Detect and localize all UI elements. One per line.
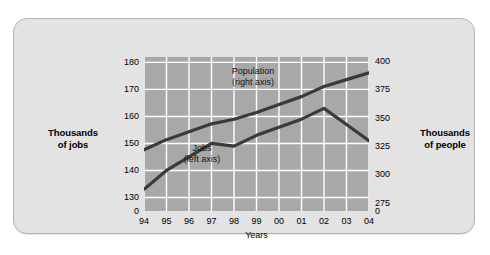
y-axis-tick-right: 350: [375, 114, 401, 123]
annotation-population-line1: Population: [232, 66, 275, 76]
annotation-jobs-line1: Jobs: [192, 143, 211, 153]
y-axis-tick-right: 325: [375, 142, 401, 151]
left-axis-title: Thousands of jobs: [34, 127, 112, 150]
x-axis-tick: 97: [202, 217, 222, 226]
x-axis-tick: 98: [224, 217, 244, 226]
left-axis-title-line1: Thousands: [48, 127, 98, 138]
x-axis-tick: 04: [359, 217, 379, 226]
annotation-jobs: Jobs (left axis): [170, 143, 234, 164]
y-axis-tick-left: 180: [113, 58, 139, 67]
x-axis-tick: 01: [292, 217, 312, 226]
left-axis-title-line2: of jobs: [58, 139, 88, 150]
y-axis-tick-left: 160: [113, 112, 139, 121]
y-axis-tick-left: 0: [113, 207, 139, 216]
x-axis-tick: 94: [134, 217, 154, 226]
x-axis-tick: 03: [337, 217, 357, 226]
right-axis-title-line1: Thousands: [420, 127, 470, 138]
x-axis-tick: 99: [247, 217, 267, 226]
x-axis-tick: 02: [314, 217, 334, 226]
y-axis-tick-right: 300: [375, 170, 401, 179]
right-axis-title-line2: of people: [424, 139, 465, 150]
y-axis-tick-right: 0: [375, 207, 401, 216]
x-axis-tick: 95: [157, 217, 177, 226]
annotation-population-line2: (right axis): [232, 77, 274, 87]
x-axis-tick: 96: [179, 217, 199, 226]
y-axis-tick-left: 140: [113, 166, 139, 175]
y-axis-tick-left: 130: [113, 193, 139, 202]
y-axis-tick-left: 170: [113, 85, 139, 94]
y-axis-tick-left: 150: [113, 139, 139, 148]
right-axis-title: Thousands of people: [403, 127, 487, 150]
annotation-jobs-line2: (left axis): [184, 154, 221, 164]
y-axis-tick-right: 400: [375, 57, 401, 66]
chart-card: Thousands of jobs Thousands of people 18…: [13, 18, 475, 234]
annotation-population: Population (right axis): [210, 66, 296, 87]
y-axis-tick-right: 375: [375, 85, 401, 94]
x-axis-tick: 00: [269, 217, 289, 226]
x-axis-label: Years: [199, 230, 314, 240]
